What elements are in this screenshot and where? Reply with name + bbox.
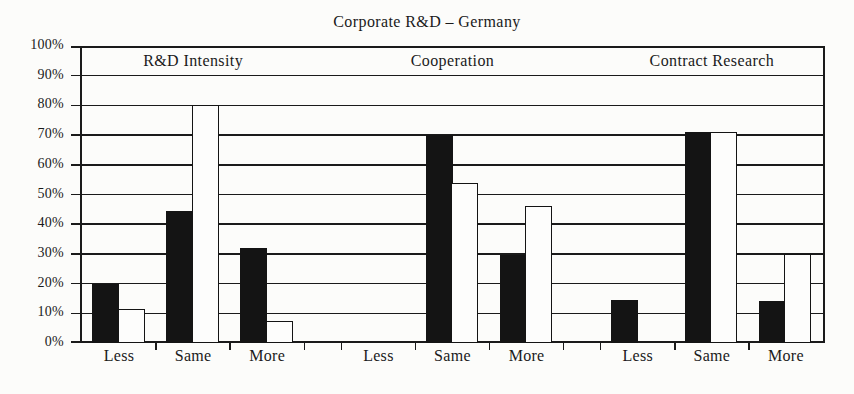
filled-black-bar xyxy=(500,255,527,343)
group-label: Cooperation xyxy=(341,52,563,70)
y-tick-70% xyxy=(71,134,80,136)
filled-black-bar xyxy=(240,248,267,343)
open-white-bar xyxy=(118,309,145,343)
y-axis-label-40%: 40% xyxy=(37,215,64,231)
y-axis: 0%10%20%30%40%50%60%70%80%90%100% xyxy=(0,46,69,343)
filled-black-bar xyxy=(759,301,786,343)
x-axis: LessSameMoreLessSameMoreLessSameMore xyxy=(82,347,823,371)
category-label: Less xyxy=(341,347,415,365)
y-axis-label-10%: 10% xyxy=(37,304,64,320)
filled-black-bar xyxy=(611,300,638,343)
open-white-bar xyxy=(266,321,293,343)
y-tick-20% xyxy=(71,283,80,285)
filled-black-bar xyxy=(426,135,453,343)
filled-black-bar xyxy=(166,211,193,343)
category-label: Less xyxy=(601,347,675,365)
category-label: Same xyxy=(415,347,489,365)
category-label: More xyxy=(749,347,823,365)
y-tick-80% xyxy=(71,105,80,107)
category-label: Same xyxy=(675,347,749,365)
open-white-bar xyxy=(525,206,552,343)
y-tick-90% xyxy=(71,75,80,77)
gridline-90% xyxy=(82,75,823,77)
category-label: Less xyxy=(82,347,156,365)
y-tick-10% xyxy=(71,313,80,315)
plot-area xyxy=(80,46,825,343)
gridline-100% xyxy=(82,46,823,48)
y-axis-label-70%: 70% xyxy=(37,126,64,142)
y-axis-label-90%: 90% xyxy=(37,67,64,83)
filled-black-bar xyxy=(685,132,712,343)
y-tick-50% xyxy=(71,194,80,196)
y-axis-label-100%: 100% xyxy=(30,37,64,53)
y-tick-0% xyxy=(71,341,80,343)
bar-chart-figure: Corporate R&D – Germany 0%10%20%30%40%50… xyxy=(0,0,854,394)
chart-title: Corporate R&D – Germany xyxy=(0,13,854,31)
open-white-bar xyxy=(710,132,737,343)
filled-black-bar xyxy=(92,284,119,343)
group-label: Contract Research xyxy=(601,52,823,70)
y-axis-label-20%: 20% xyxy=(37,275,64,291)
y-axis-label-0%: 0% xyxy=(45,334,64,350)
open-white-bar xyxy=(784,254,811,343)
y-axis-label-30%: 30% xyxy=(37,245,64,261)
category-label: Same xyxy=(156,347,230,365)
y-axis-label-80%: 80% xyxy=(37,96,64,112)
y-tick-60% xyxy=(71,164,80,166)
open-white-bar xyxy=(451,183,478,343)
group-label: R&D Intensity xyxy=(82,52,304,70)
y-tick-30% xyxy=(71,253,80,255)
y-axis-label-60%: 60% xyxy=(37,156,64,172)
open-white-bar xyxy=(192,105,219,343)
y-tick-100% xyxy=(71,46,80,48)
y-tick-40% xyxy=(71,223,80,225)
category-label: More xyxy=(490,347,564,365)
category-label: More xyxy=(230,347,304,365)
y-axis-label-50%: 50% xyxy=(37,186,64,202)
